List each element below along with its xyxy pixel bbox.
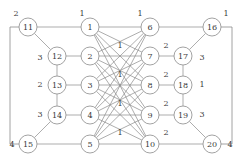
graph-node[interactable]: 19	[174, 106, 192, 124]
edge-weight-label: 1	[117, 70, 122, 79]
node-label: 4	[87, 111, 92, 120]
graph-node[interactable]: 18	[174, 76, 192, 94]
node-label: 15	[23, 140, 33, 149]
edge-weight-label: 1	[79, 9, 84, 18]
edge-weight-label: 1	[117, 128, 122, 137]
node-label: 3	[87, 81, 92, 90]
node-label: 20	[207, 140, 217, 149]
graph-edge	[34, 121, 50, 137]
graph-node[interactable]: 14	[48, 106, 66, 124]
edge-weight-label: 2	[13, 9, 18, 18]
edge-weight-label: 3	[199, 53, 204, 62]
graph-node[interactable]: 6	[141, 18, 159, 36]
edge-weight-label: 1	[117, 41, 122, 50]
node-label: 12	[52, 52, 62, 61]
graph-edge	[189, 33, 205, 49]
edge-weight-label: 2	[163, 128, 168, 137]
graph-node[interactable]: 12	[48, 47, 66, 65]
graph-node[interactable]: 13	[48, 76, 66, 94]
node-label: 10	[145, 140, 155, 149]
graph-node[interactable]: 7	[141, 47, 159, 65]
node-label: 13	[52, 81, 62, 90]
edge-weight-label: 2	[37, 80, 42, 89]
graph-node[interactable]: 9	[141, 106, 159, 124]
node-label: 6	[147, 23, 152, 32]
graph-node[interactable]: 17	[174, 47, 192, 65]
node-label: 5	[87, 140, 92, 149]
node-label: 18	[178, 81, 188, 90]
graph-node[interactable]: 11	[19, 18, 37, 36]
edge-weight-label: 2	[163, 70, 168, 79]
graph-node[interactable]: 20	[203, 135, 221, 153]
node-label: 14	[52, 111, 62, 120]
edge-weight-label: 4	[9, 140, 14, 149]
edge-weight-label: 2	[163, 99, 168, 108]
node-label: 2	[87, 52, 92, 61]
node-label: 7	[147, 52, 152, 61]
graph-node[interactable]: 3	[81, 76, 99, 94]
node-label: 11	[23, 23, 33, 32]
graph-node[interactable]: 15	[19, 135, 37, 153]
graph-node[interactable]: 8	[141, 76, 159, 94]
graph-node[interactable]: 5	[81, 135, 99, 153]
edge-weight-label: 1	[117, 99, 122, 108]
graph-edge	[10, 27, 19, 144]
graph-node[interactable]: 4	[81, 106, 99, 124]
edge-weight-label: 1	[137, 9, 142, 18]
graph-node[interactable]: 16	[203, 18, 221, 36]
node-label: 17	[178, 52, 188, 61]
graph-node[interactable]: 10	[141, 135, 159, 153]
node-label: 1	[87, 23, 92, 32]
edge-labels-layer: 21113123212131234124	[9, 9, 232, 149]
edge-weight-label: 2	[163, 41, 168, 50]
graph-node[interactable]: 2	[81, 47, 99, 65]
graph-canvas: 1234567891011121314151617181920 21113123…	[0, 0, 242, 165]
edge-weight-label: 3	[199, 110, 204, 119]
weighted-graph-figure: 1234567891011121314151617181920 21113123…	[0, 0, 242, 165]
node-label: 19	[178, 111, 188, 120]
node-label: 8	[147, 81, 152, 90]
edge-weight-label: 1	[223, 9, 228, 18]
graph-edge	[189, 121, 205, 137]
edge-weight-label: 1	[199, 80, 204, 89]
graph-edge	[34, 33, 50, 49]
graph-node[interactable]: 1	[81, 18, 99, 36]
graph-edge	[221, 27, 232, 144]
edge-weight-label: 3	[37, 110, 42, 119]
node-label: 16	[207, 23, 217, 32]
node-label: 9	[147, 111, 152, 120]
edge-weight-label: 3	[37, 53, 42, 62]
edge-weight-label: 4	[227, 140, 232, 149]
